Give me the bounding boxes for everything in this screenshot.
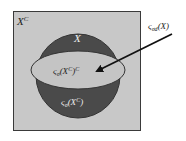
callout-label: ςσd(X) [148, 21, 169, 32]
set-x-label: X [73, 32, 82, 44]
lower-region-label: ςσ(XC) [61, 97, 83, 108]
set-diagram: XC X ςσ(XC)C ςσ(XC) ςσd(X) [0, 0, 186, 141]
